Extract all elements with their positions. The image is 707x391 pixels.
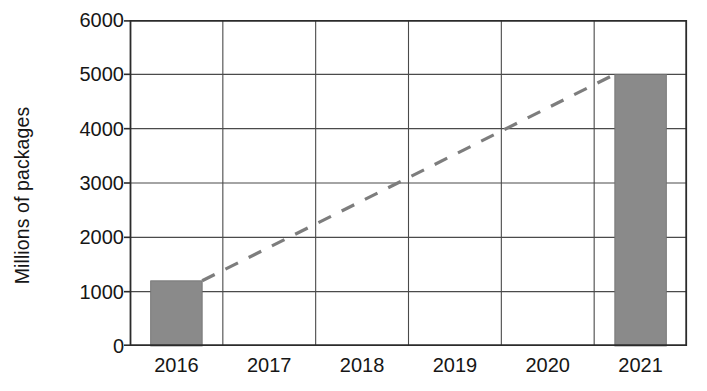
y-tick-label: 3000 <box>50 173 124 193</box>
x-tick-label: 2017 <box>223 352 316 384</box>
x-tick-label: 2016 <box>130 352 223 384</box>
x-axis-tick-labels: 2016 2017 2018 2019 2020 2021 <box>130 352 687 384</box>
y-axis-title: Millions of packages <box>0 0 44 391</box>
y-tick-label: 5000 <box>50 64 124 84</box>
x-tick-label: 2020 <box>501 352 594 384</box>
x-tick-label: 2021 <box>594 352 687 384</box>
y-axis-tick-labels: 0 1000 2000 3000 4000 5000 6000 <box>44 0 124 391</box>
y-tick-label: 6000 <box>50 10 124 30</box>
bar-2016 <box>151 281 203 346</box>
y-tick-label: 2000 <box>50 227 124 247</box>
y-tick-label: 4000 <box>50 119 124 139</box>
y-axis-ticks <box>124 21 130 345</box>
y-tick-label: 1000 <box>50 282 124 302</box>
x-tick-label: 2018 <box>316 352 409 384</box>
x-tick-label: 2019 <box>408 352 501 384</box>
packages-bar-chart: Millions of packages 0 1000 2000 3000 40… <box>0 0 707 391</box>
y-tick-label: 0 <box>50 336 124 356</box>
plot-area <box>130 20 687 346</box>
plot-svg <box>130 20 687 346</box>
bar-2021 <box>615 74 667 346</box>
